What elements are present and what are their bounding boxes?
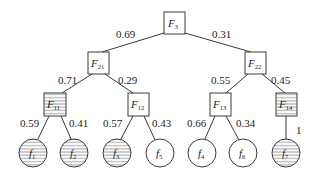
prob-f12: 0.29 (118, 74, 138, 86)
leaf-f2: f2 (60, 139, 88, 167)
prob-f14: 0.45 (271, 74, 291, 86)
leaf-f1: f1 (19, 139, 47, 167)
node-f12: F12 (128, 93, 149, 116)
node-f13: F13 (210, 93, 231, 116)
prob-f7: 1 (296, 124, 302, 136)
leaf-f4: f4 (188, 139, 216, 167)
prob-f11: 0.71 (58, 74, 77, 86)
probability-tree-diagram: 0.69 0.31 0.71 0.29 0.55 0.45 0.59 0.41 … (0, 0, 315, 177)
edge-f11-f1 (38, 116, 49, 139)
leaf-f7: f7 (272, 139, 300, 167)
prob-f3: 0.57 (103, 117, 123, 129)
node-f11: F11 (44, 93, 66, 116)
prob-f1: 0.59 (20, 117, 40, 129)
leaf-f3: f3 (103, 139, 131, 167)
prob-f5: 0.43 (152, 117, 172, 129)
leaf-f6: f6 (229, 139, 257, 167)
prob-f21: 0.69 (116, 28, 136, 40)
prob-f13: 0.55 (211, 74, 231, 86)
prob-f22: 0.31 (212, 28, 231, 40)
prob-f2: 0.41 (69, 117, 88, 129)
prob-f4: 0.66 (187, 117, 207, 129)
node-f3: F3 (164, 12, 185, 34)
node-f14: F14 (276, 93, 297, 116)
node-f21: F21 (88, 52, 109, 74)
leaf-f5: f5 (146, 139, 174, 167)
edge-f13-f4 (205, 116, 215, 139)
edge-f12-f3 (121, 116, 133, 139)
node-f22: F22 (245, 52, 266, 74)
prob-f6: 0.34 (236, 117, 256, 129)
